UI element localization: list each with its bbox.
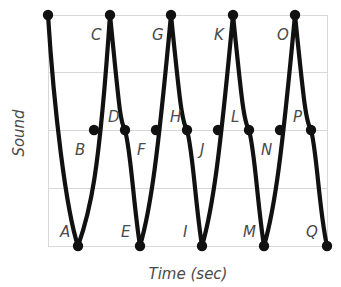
- marker-F: [151, 125, 161, 135]
- point-label-C: C: [91, 26, 102, 44]
- marker-B: [89, 125, 99, 135]
- marker-J: [213, 125, 223, 135]
- point-label-E: E: [121, 223, 131, 241]
- chart-svg: ABCDEFGHIJKLMNOPQ Sound Time (sec): [0, 0, 341, 287]
- point-label-D: D: [108, 108, 120, 126]
- point-label-B: B: [75, 141, 86, 159]
- marker-A: [73, 241, 83, 251]
- point-label-I: I: [183, 223, 188, 241]
- sound-wave-chart: ABCDEFGHIJKLMNOPQ Sound Time (sec): [0, 0, 341, 287]
- marker-P: [306, 125, 316, 135]
- point-label-G: G: [152, 26, 164, 44]
- point-label-F: F: [137, 141, 146, 159]
- y-axis-label: Sound: [10, 109, 28, 157]
- x-axis-label: Time (sec): [149, 265, 228, 283]
- marker-M: [259, 241, 269, 251]
- point-label-M: M: [243, 223, 256, 241]
- point-label-A: A: [59, 223, 71, 241]
- point-label-N: N: [261, 141, 273, 159]
- marker-O: [290, 10, 300, 20]
- marker-N: [275, 125, 285, 135]
- point-label-O: O: [277, 26, 289, 44]
- marker-L: [244, 125, 254, 135]
- marker-crest-17: [43, 10, 53, 20]
- marker-E: [135, 241, 145, 251]
- point-label-Q: Q: [306, 223, 318, 241]
- marker-C: [105, 10, 115, 20]
- marker-I: [197, 241, 207, 251]
- marker-D: [120, 125, 130, 135]
- point-label-P: P: [293, 108, 303, 126]
- point-label-H: H: [170, 108, 182, 126]
- marker-G: [166, 10, 176, 20]
- marker-Q: [322, 241, 332, 251]
- point-label-K: K: [214, 26, 225, 44]
- marker-K: [228, 10, 238, 20]
- point-label-L: L: [231, 108, 240, 126]
- marker-H: [182, 125, 192, 135]
